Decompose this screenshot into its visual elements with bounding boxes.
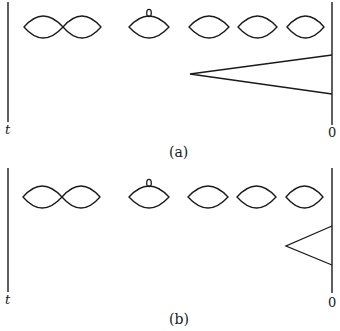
lens-b-1 xyxy=(188,186,228,208)
lens-pair-a-right xyxy=(63,16,101,38)
lens-b-2 xyxy=(237,186,276,208)
lens-diagram-figure: t 0 (a) t 0 (b) xyxy=(0,0,340,331)
zero-label-a: 0 xyxy=(328,125,336,140)
caption-b: (b) xyxy=(169,311,189,327)
caption-a: (a) xyxy=(169,144,188,160)
lens-a-2 xyxy=(238,16,277,38)
wedge-a xyxy=(190,55,332,94)
lens-pair-a-left xyxy=(24,16,63,38)
panel-a: t 0 (a) xyxy=(5,2,336,160)
lens-pair-b-left xyxy=(23,186,62,208)
zero-label-b: 0 xyxy=(328,295,336,310)
lens-pair-b-right xyxy=(62,186,100,208)
lens-a-3 xyxy=(287,16,324,38)
wedge-b xyxy=(286,226,332,265)
lens-with-loop-a xyxy=(129,16,169,38)
t-label-b: t xyxy=(5,292,11,307)
lens-a-1 xyxy=(189,16,229,38)
t-label-a: t xyxy=(5,122,11,137)
panel-b: t 0 (b) xyxy=(5,168,336,327)
lens-b-3 xyxy=(286,186,323,208)
lens-with-loop-b xyxy=(129,186,169,208)
